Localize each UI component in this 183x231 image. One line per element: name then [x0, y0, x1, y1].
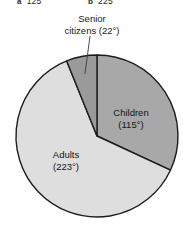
pie-wedges [16, 55, 178, 217]
pie-chart-svg: Children(115°)Adults(223°) [0, 0, 183, 231]
slice-label-children: Children(115°) [113, 107, 148, 130]
pie-chart-figure: a125 b225 Senior citizens (22°) Children… [0, 0, 183, 231]
slice-label-adults: Adults(223°) [53, 149, 80, 172]
